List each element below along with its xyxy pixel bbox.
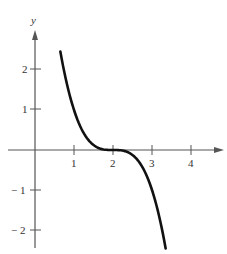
x-tick-label-2: 2 bbox=[110, 157, 116, 169]
x-axis-arrow-icon bbox=[214, 147, 224, 153]
y-tick-label-neg2: − 2 bbox=[11, 224, 25, 236]
x-tick-label-1: 1 bbox=[71, 157, 77, 169]
x-tick-label-3: 3 bbox=[149, 157, 155, 169]
y-axis-label: y bbox=[30, 14, 36, 26]
y-axis-arrow-icon bbox=[32, 30, 38, 40]
y-tick-label-neg1: − 1 bbox=[11, 184, 25, 196]
y-tick-label-2: 2 bbox=[22, 63, 28, 75]
chart-canvas: y 1 2 3 4 2 1 − 1 − 2 bbox=[0, 0, 227, 254]
y-tick-label-1: 1 bbox=[22, 103, 28, 115]
x-tick-label-4: 4 bbox=[188, 157, 194, 169]
